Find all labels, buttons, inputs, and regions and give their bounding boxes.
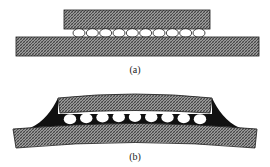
solder-bump xyxy=(96,113,108,123)
solder-bump xyxy=(100,29,112,38)
panel-b: (b) xyxy=(13,94,257,163)
flip-chip-diagram: (a) (b) xyxy=(0,0,270,167)
substrate-a xyxy=(16,37,259,56)
panel-a: (a) xyxy=(16,10,259,76)
die-a xyxy=(64,10,210,29)
solder-bump xyxy=(113,112,125,122)
solder-bump xyxy=(113,29,125,38)
solder-bump xyxy=(193,29,205,38)
solder-bump xyxy=(145,112,157,122)
solder-bumps-a xyxy=(73,29,205,38)
solder-bump xyxy=(178,113,190,123)
panel-b-label: (b) xyxy=(129,151,141,163)
panel-a-label: (a) xyxy=(129,64,140,76)
solder-bump xyxy=(86,29,98,38)
solder-bump xyxy=(153,29,165,38)
solder-bump xyxy=(166,29,178,38)
solder-bump xyxy=(80,113,92,123)
solder-bump xyxy=(161,113,173,123)
substrate-b xyxy=(13,124,257,149)
solder-bump xyxy=(73,29,85,38)
solder-bump xyxy=(129,112,141,122)
solder-bump xyxy=(180,29,192,38)
solder-bump xyxy=(140,29,152,38)
solder-bump xyxy=(126,29,138,38)
die-b xyxy=(58,94,212,113)
solder-bump xyxy=(64,114,76,124)
solder-bump xyxy=(194,114,206,124)
